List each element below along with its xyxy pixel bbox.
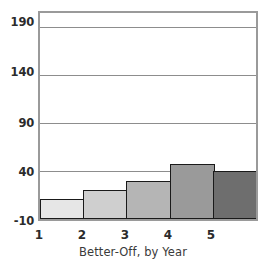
x-axis-tick-label-4: 4	[146, 228, 190, 242]
y-axis-tick-label-140: 140	[0, 66, 34, 78]
x-axis-tick-label-3: 3	[103, 228, 147, 242]
bar-2[interactable]	[83, 190, 128, 219]
x-axis-tick-label-2: 2	[60, 228, 104, 242]
bar-3[interactable]	[126, 181, 171, 219]
y-axis-tick-label-190: 190	[0, 16, 34, 28]
bar-chart: 190 140 90 40 -10 1 2 3 4 5 Better-Off,	[0, 0, 266, 263]
x-axis-tick-label-5: 5	[189, 228, 233, 242]
y-axis-tick-label-90: 90	[0, 117, 34, 129]
x-axis-title: Better-Off, by Year	[0, 245, 266, 259]
bar-5[interactable]	[213, 171, 256, 219]
bar-4[interactable]	[170, 164, 215, 219]
bar-1[interactable]	[40, 199, 85, 219]
plot-inner	[40, 13, 256, 219]
y-axis-tick-label-40: 40	[0, 166, 34, 178]
y-axis-tick-label-neg10: -10	[0, 215, 34, 227]
plot-area	[38, 11, 258, 221]
x-axis-tick-label-1: 1	[17, 228, 61, 242]
bars-layer	[40, 13, 256, 219]
